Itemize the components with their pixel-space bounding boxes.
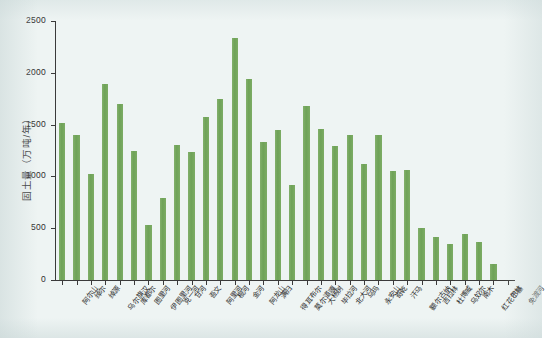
y-tick-label: 500 (31, 222, 46, 232)
y-tick-label: 1500 (26, 119, 46, 129)
bar (260, 142, 266, 280)
bar (347, 135, 353, 280)
bar (246, 79, 252, 280)
bar (404, 170, 410, 280)
bar (117, 104, 123, 280)
bar (318, 129, 324, 280)
x-axis-line (55, 280, 515, 281)
x-tick-label: 金河 (249, 283, 266, 301)
bar (289, 185, 295, 280)
bar (332, 146, 338, 280)
bar (160, 198, 166, 280)
plot-area: 05001000150020002500 (55, 22, 515, 281)
bar (433, 237, 439, 281)
x-axis-labels: 阿尔山绰尔绰源乌尔旗汉库都尔图里河伊图里河克一河甘河吾文阿里河根河金河阿龙山满归… (55, 283, 525, 335)
bar (447, 244, 453, 280)
bar (275, 130, 281, 280)
x-tick-label: 免渡河 (525, 283, 546, 306)
bar (375, 135, 381, 280)
bar (390, 171, 396, 280)
bar (88, 174, 94, 280)
y-tick-label: 0 (41, 274, 46, 284)
bar (188, 152, 194, 280)
bar (203, 117, 209, 280)
bar (217, 99, 223, 280)
y-tick-label: 1000 (26, 170, 46, 180)
bar (462, 234, 468, 280)
x-tick-label: 绰源 (105, 283, 122, 301)
y-axis-line (55, 22, 56, 281)
y-tick-label: 2500 (26, 15, 46, 25)
y-tick: 500 (51, 228, 56, 229)
y-tick: 1000 (51, 176, 56, 177)
bar (361, 164, 367, 280)
x-tick-label: 汗马 (407, 283, 424, 301)
bar (303, 106, 309, 280)
bar (174, 145, 180, 280)
x-tick-label: 吾文 (206, 283, 223, 301)
bar (102, 84, 108, 280)
y-tick: 2500 (51, 21, 56, 22)
y-tick: 1500 (51, 125, 56, 126)
bar (418, 228, 424, 280)
bar (490, 264, 496, 280)
y-tick-label: 2000 (26, 67, 46, 77)
bar (73, 135, 79, 280)
bar (59, 123, 65, 280)
bar (145, 225, 151, 280)
y-axis-title: 固土量（万吨/年） (18, 18, 36, 296)
bar (131, 151, 137, 281)
bar (232, 38, 238, 280)
bar (476, 242, 482, 280)
y-tick: 2000 (51, 73, 56, 74)
y-tick: 0 (51, 280, 56, 281)
